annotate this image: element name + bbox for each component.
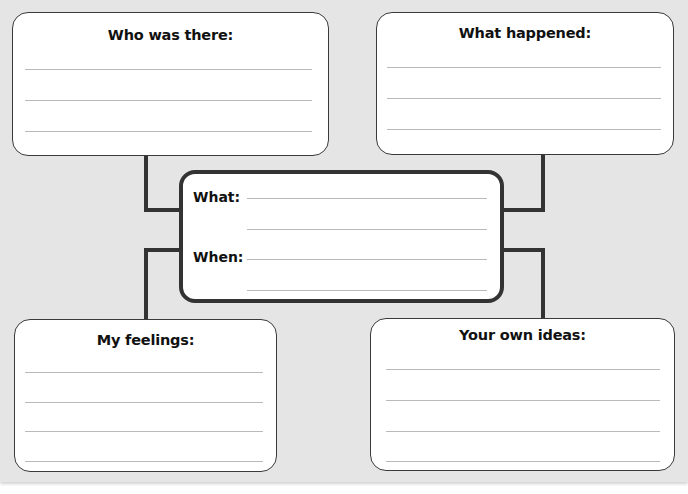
writing-line[interactable] — [386, 461, 660, 462]
writing-line[interactable] — [387, 98, 661, 99]
writing-line[interactable] — [25, 431, 263, 432]
connector-bottom-left-horizontal — [144, 248, 182, 252]
connector-bottom-right-horizontal — [502, 248, 545, 252]
connector-top-right-horizontal — [502, 208, 545, 212]
when-line-2[interactable] — [247, 290, 487, 291]
connector-top-left-vertical — [144, 155, 148, 212]
my-feelings-title: My feelings: — [15, 332, 276, 348]
who-was-there-box: Who was there: — [12, 12, 329, 156]
your-own-ideas-box: Your own ideas: — [370, 318, 675, 471]
my-feelings-box: My feelings: — [14, 319, 277, 472]
writing-line[interactable] — [387, 67, 661, 68]
your-own-ideas-title: Your own ideas: — [371, 327, 674, 343]
what-when-box: What: When: — [179, 170, 504, 303]
what-happened-box: What happened: — [376, 12, 674, 155]
writing-line[interactable] — [387, 129, 661, 130]
who-was-there-title: Who was there: — [13, 27, 328, 43]
writing-line[interactable] — [25, 402, 263, 403]
what-happened-title: What happened: — [377, 25, 673, 41]
writing-line[interactable] — [25, 372, 263, 373]
writing-line[interactable] — [25, 100, 312, 101]
what-label: What: — [193, 189, 240, 205]
what-line-2[interactable] — [247, 229, 487, 230]
when-label: When: — [193, 249, 243, 265]
what-line-1[interactable] — [247, 198, 487, 199]
writing-line[interactable] — [25, 69, 312, 70]
writing-line[interactable] — [25, 131, 312, 132]
connector-top-right-vertical — [541, 154, 545, 212]
writing-line[interactable] — [386, 400, 660, 401]
writing-line[interactable] — [386, 369, 660, 370]
when-line-1[interactable] — [247, 259, 487, 260]
connector-top-left-horizontal — [144, 208, 182, 212]
worksheet-background: Who was there: What happened: What: When… — [0, 0, 688, 482]
writing-line[interactable] — [25, 461, 263, 462]
connector-bottom-right-vertical — [541, 248, 545, 319]
writing-line[interactable] — [386, 431, 660, 432]
connector-bottom-left-vertical — [144, 248, 148, 320]
